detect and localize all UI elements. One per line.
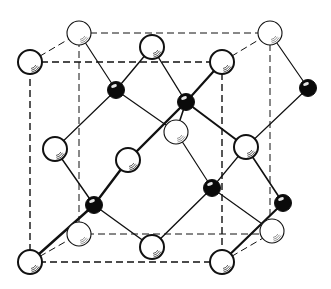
black-atom-b2 — [178, 94, 195, 111]
black-atom-b6 — [275, 195, 292, 212]
white-atom-w-back-bl — [67, 222, 91, 246]
white-atom-w-front-center — [116, 148, 140, 172]
white-atom-w-front-tl — [18, 50, 42, 74]
white-atom-w-back-tl — [67, 21, 91, 45]
white-atom-w-front-tr — [210, 50, 234, 74]
black-atom-b1 — [108, 82, 125, 99]
black-atom-b5 — [204, 180, 221, 197]
unit-cell-drawing — [0, 0, 331, 289]
white-atom-w-left-center — [43, 137, 67, 161]
crystal-structure-diagram — [0, 0, 331, 289]
black-atom-b4 — [86, 197, 103, 214]
white-atom-w-back-br — [260, 219, 284, 243]
white-atom-w-right-center — [234, 135, 258, 159]
black-atom-b3 — [300, 80, 317, 97]
white-atom-w-back-center — [164, 120, 188, 144]
white-atom-w-front-bl — [18, 250, 42, 274]
white-atom-w-bottom-center — [140, 235, 164, 259]
white-atom-w-front-br — [210, 250, 234, 274]
back-atoms — [67, 21, 284, 246]
white-atom-w-top-center — [140, 35, 164, 59]
white-atom-w-back-tr — [258, 21, 282, 45]
